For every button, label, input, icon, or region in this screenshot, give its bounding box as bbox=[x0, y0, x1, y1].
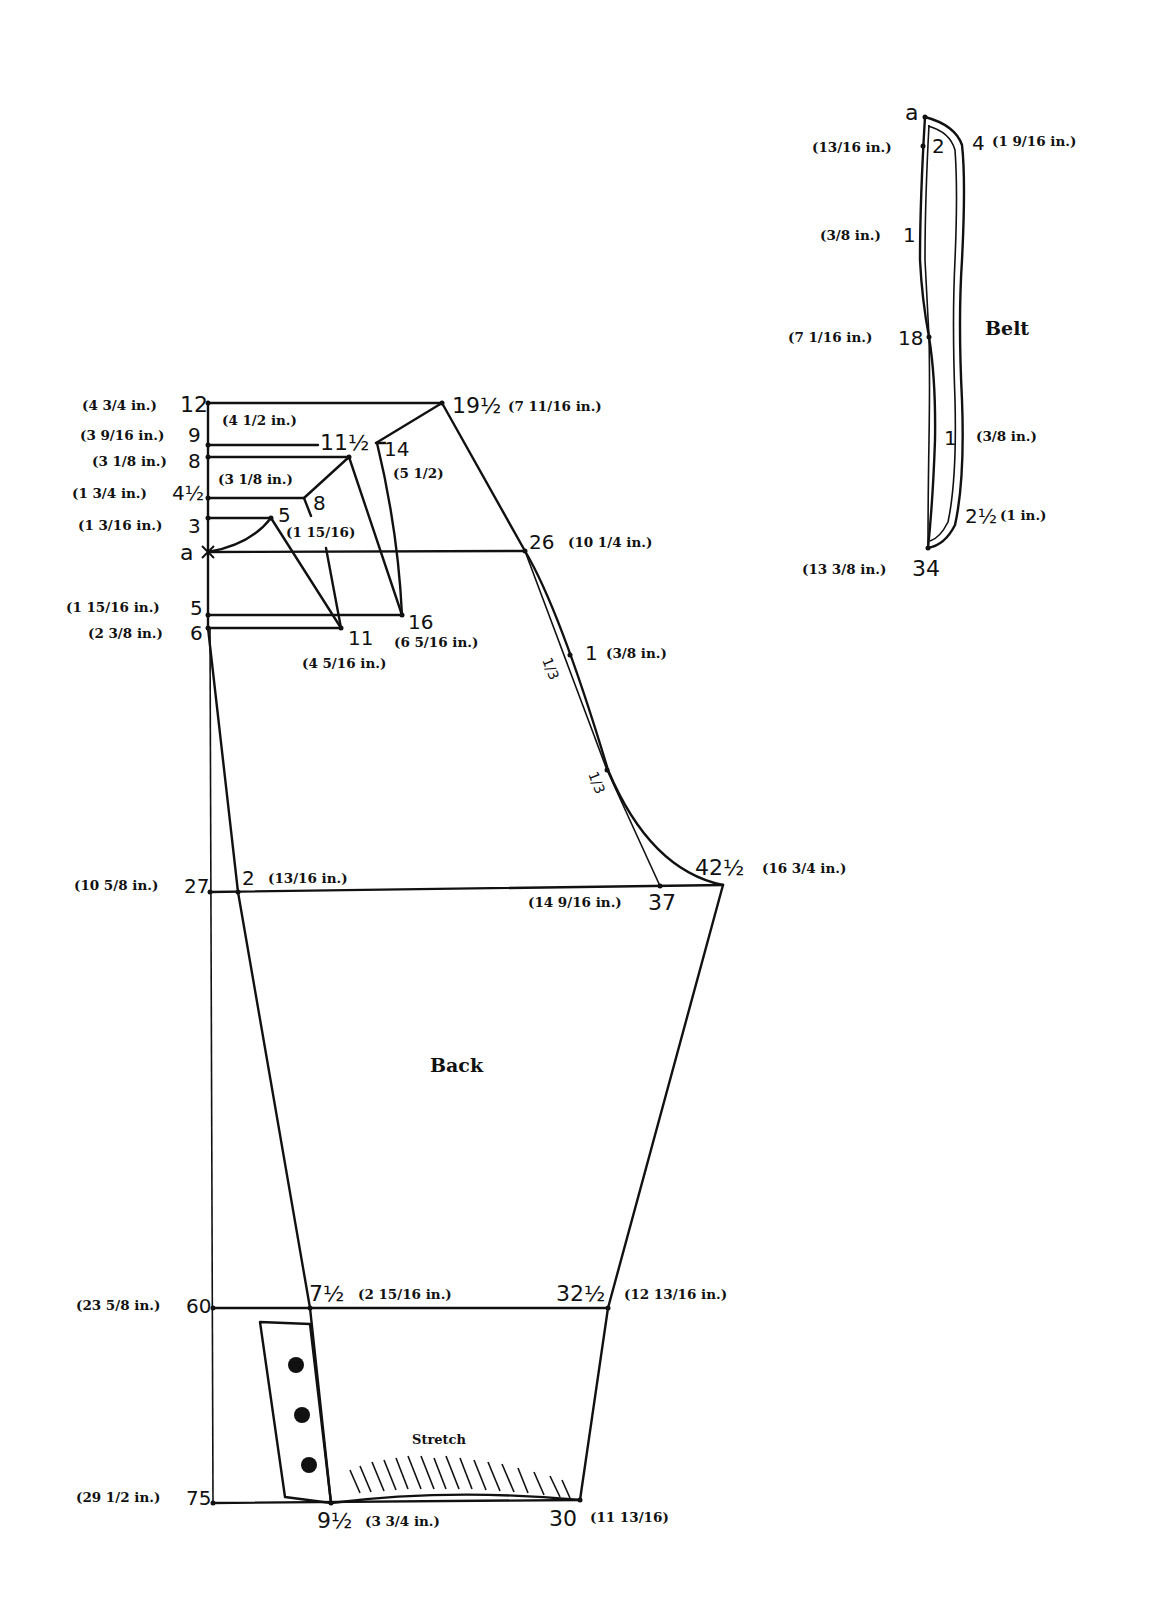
belt-label-34-meas: (13 3/8 in.) bbox=[802, 561, 886, 577]
label-11-num: 11 bbox=[348, 626, 373, 650]
label-9-5-num: 9½ bbox=[317, 1508, 352, 1533]
belt-label-1-left-num: 1 bbox=[903, 223, 916, 247]
label-one-third-b: 1/3 bbox=[585, 769, 608, 796]
belt-outer-edge bbox=[925, 117, 964, 548]
inner-seam-mid bbox=[238, 892, 310, 1308]
point-markers bbox=[206, 401, 663, 1506]
belt-label-34-num: 34 bbox=[912, 556, 940, 581]
label-one-third-a: 1/3 bbox=[539, 655, 562, 682]
outer-seam-lower bbox=[580, 1308, 608, 1500]
tick-8 bbox=[304, 498, 311, 516]
label-16-meas: (6 5/16 in.) bbox=[394, 634, 478, 650]
back-pattern: (4 3/4 in.) 12 (3 9/16 in.) 9 (3 1/8 in.… bbox=[66, 392, 846, 1533]
label-2-num: 2 bbox=[242, 866, 255, 890]
label-8-inner-num: 8 bbox=[313, 491, 326, 515]
belt-label-a: a bbox=[905, 100, 918, 125]
label-12-num: 12 bbox=[180, 392, 208, 417]
line-27 bbox=[210, 885, 723, 892]
belt-label-2-5-num: 2½ bbox=[965, 504, 997, 528]
label-a-num: a bbox=[180, 540, 193, 565]
crotch-curve-top bbox=[208, 518, 271, 552]
label-16-num: 16 bbox=[408, 610, 433, 634]
label-19-5-meas: (7 11/16 in.) bbox=[508, 398, 602, 414]
label-9-meas: (3 9/16 in.) bbox=[80, 427, 164, 443]
label-14-meas: (5 1/2) bbox=[393, 465, 444, 481]
label-3-num: 3 bbox=[188, 514, 201, 538]
label-37-num: 37 bbox=[648, 890, 676, 915]
label-19-5-num: 19½ bbox=[452, 393, 501, 418]
label-2-meas: (13/16 in.) bbox=[268, 870, 348, 886]
side-seam-upper bbox=[442, 403, 525, 551]
stretch-label: Stretch bbox=[412, 1432, 466, 1447]
label-42-5-num: 42½ bbox=[695, 855, 744, 880]
label-1-meas: (3/8 in.) bbox=[606, 645, 667, 661]
label-26-meas: (10 1/4 in.) bbox=[568, 534, 652, 550]
side-seam-curve bbox=[525, 551, 723, 885]
line-a bbox=[208, 551, 525, 552]
button-dot-3 bbox=[301, 1457, 317, 1473]
belt-label-1-left-meas: (3/8 in.) bbox=[820, 227, 881, 243]
label-mid-width: (3 1/8 in.) bbox=[218, 471, 293, 487]
belt-label-4-num: 4 bbox=[972, 131, 985, 155]
label-3-meas: (1 3/16 in.) bbox=[78, 517, 162, 533]
label-32-5-num: 32½ bbox=[556, 1281, 605, 1306]
belt-label-1-right-meas: (3/8 in.) bbox=[976, 428, 1037, 444]
label-32-5-meas: (12 13/16 in.) bbox=[624, 1286, 727, 1302]
pattern-canvas: (4 3/4 in.) 12 (3 9/16 in.) 9 (3 1/8 in.… bbox=[0, 0, 1167, 1609]
dart-top-edge bbox=[304, 457, 349, 498]
label-1-num: 1 bbox=[585, 641, 598, 665]
label-8-meas: (3 1/8 in.) bbox=[92, 453, 167, 469]
label-11-meas: (4 5/16 in.) bbox=[302, 655, 386, 671]
label-5-num: 5 bbox=[190, 596, 203, 620]
belt-label-2-num: 2 bbox=[932, 134, 945, 158]
label-5-inner-meas: (1 15/16) bbox=[286, 524, 355, 540]
center-reference-line bbox=[210, 628, 213, 1503]
label-42-5-meas: (16 3/4 in.) bbox=[762, 860, 846, 876]
label-26-num: 26 bbox=[529, 530, 554, 554]
belt-label-1-right-num: 1 bbox=[944, 426, 957, 450]
button-dot-2 bbox=[294, 1407, 310, 1423]
label-11-5-num: 11½ bbox=[320, 430, 369, 455]
label-30-meas: (11 13/16) bbox=[590, 1509, 669, 1525]
label-30-num: 30 bbox=[549, 1506, 577, 1531]
label-27-num: 27 bbox=[184, 874, 209, 898]
button-dot-1 bbox=[288, 1357, 304, 1373]
label-7-5-num: 7½ bbox=[309, 1281, 344, 1306]
label-6-meas: (2 3/8 in.) bbox=[88, 625, 163, 641]
belt-label-18-meas: (7 1/16 in.) bbox=[788, 329, 872, 345]
belt-title: Belt bbox=[985, 317, 1029, 339]
label-37-meas: (14 9/16 in.) bbox=[528, 894, 622, 910]
belt-label-2-5-meas: (1 in.) bbox=[1000, 507, 1047, 523]
label-75-meas: (29 1/2 in.) bbox=[76, 1489, 160, 1505]
outer-seam-upper bbox=[608, 885, 723, 1308]
label-12-meas: (4 3/4 in.) bbox=[82, 397, 157, 413]
inner-seam-upper bbox=[208, 628, 238, 892]
guide-to-37 bbox=[607, 770, 660, 886]
label-4-5-meas: (1 3/4 in.) bbox=[72, 485, 147, 501]
label-7-5-meas: (2 15/16 in.) bbox=[358, 1286, 452, 1302]
label-9-num: 9 bbox=[188, 423, 201, 447]
label-6-num: 6 bbox=[190, 621, 203, 645]
label-60-num: 60 bbox=[186, 1294, 211, 1318]
label-9-5-meas: (3 3/4 in.) bbox=[365, 1513, 440, 1529]
label-75-num: 75 bbox=[186, 1486, 211, 1510]
stretch-hatching bbox=[350, 1456, 570, 1498]
belt-label-2-meas: (13/16 in.) bbox=[812, 139, 892, 155]
label-top-width: (4 1/2 in.) bbox=[222, 412, 297, 428]
label-27-meas: (10 5/8 in.) bbox=[74, 877, 158, 893]
label-14-num: 14 bbox=[384, 437, 409, 461]
label-60-meas: (23 5/8 in.) bbox=[76, 1297, 160, 1313]
line-75 bbox=[213, 1500, 580, 1503]
label-4-5-num: 4½ bbox=[172, 481, 204, 505]
label-5-meas: (1 15/16 in.) bbox=[66, 599, 160, 615]
belt-label-18-num: 18 bbox=[898, 326, 923, 350]
label-8-num: 8 bbox=[188, 449, 201, 473]
belt-label-4-meas: (1 9/16 in.) bbox=[992, 133, 1076, 149]
belt-pattern: a (13/16 in.) 2 4 (1 9/16 in.) (3/8 in.)… bbox=[788, 100, 1076, 581]
back-title: Back bbox=[430, 1054, 484, 1076]
